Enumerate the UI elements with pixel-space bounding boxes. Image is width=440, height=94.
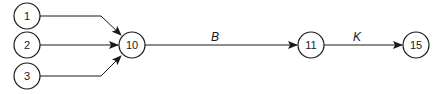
node-15-label: 15 xyxy=(410,39,422,51)
edge-label-k: K xyxy=(353,30,362,44)
node-10-label: 10 xyxy=(126,39,138,51)
node-1-label: 1 xyxy=(24,10,30,22)
diagram-svg: B K 1 2 3 10 11 15 xyxy=(0,0,440,94)
edge-label-b: B xyxy=(211,30,219,44)
node-11: 11 xyxy=(298,32,324,58)
network-diagram: B K 1 2 3 10 11 15 xyxy=(0,0,440,94)
node-10: 10 xyxy=(119,32,145,58)
edge-1-10 xyxy=(40,16,121,35)
node-3-label: 3 xyxy=(24,70,30,82)
node-11-label: 11 xyxy=(305,39,316,51)
node-3: 3 xyxy=(14,63,40,89)
node-15: 15 xyxy=(403,32,429,58)
node-2-label: 2 xyxy=(24,39,30,51)
node-1: 1 xyxy=(14,3,40,29)
node-2: 2 xyxy=(14,32,40,58)
edge-3-10 xyxy=(40,56,121,76)
